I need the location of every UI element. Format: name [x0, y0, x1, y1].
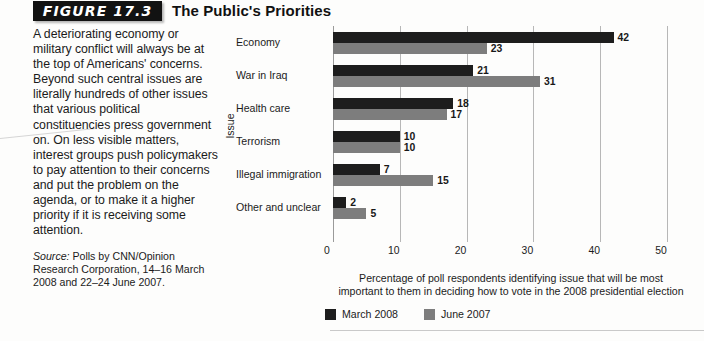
legend-entry[interactable]: March 2008: [325, 308, 398, 320]
source-note: Source: Polls by CNN/Opinion Research Co…: [33, 250, 219, 288]
gridline-30: [533, 26, 534, 242]
chart-area: Issue EconomyWar in IraqHealth careTerro…: [216, 24, 704, 341]
x-axis-caption-line-1: Percentage of poll respondents identifyi…: [318, 272, 704, 285]
figure-header: FIGURE 17.3 The Public's Priorities: [0, 0, 704, 24]
bar: [333, 208, 366, 219]
bar-value-label: 7: [384, 164, 390, 175]
plot-area: 01020304050422321311817101071525: [333, 26, 667, 242]
gridline-10: [400, 26, 401, 242]
figure-title: The Public's Priorities: [172, 2, 331, 19]
bar: [333, 32, 614, 43]
bar: [333, 43, 487, 54]
bar-value-label: 5: [370, 208, 376, 219]
category-label: Illegal immigration: [236, 168, 336, 180]
x-tick-label-40: 40: [582, 245, 606, 256]
x-tick-label-50: 50: [649, 245, 673, 256]
category-label: War in Iraq: [236, 69, 336, 81]
bar-value-label: 21: [477, 65, 489, 76]
figure-container: FIGURE 17.3 The Public's Priorities A de…: [0, 0, 704, 341]
category-axis-labels: EconomyWar in IraqHealth careTerrorismIl…: [236, 24, 336, 242]
bar: [333, 98, 453, 109]
gridline-50: [667, 26, 668, 242]
bar: [333, 131, 400, 142]
bar-value-label: 2: [350, 197, 356, 208]
figure-number-label: FIGURE 17.3: [33, 1, 162, 22]
x-tick-label-0: 0: [315, 245, 339, 256]
legend-swatch-icon: [424, 309, 435, 320]
bar-value-label: 31: [544, 76, 556, 87]
bar: [333, 175, 433, 186]
bar-value-label: 10: [404, 142, 416, 153]
gridline-20: [467, 26, 468, 242]
bar: [333, 109, 447, 120]
category-label: Health care: [236, 102, 336, 114]
bar-value-label: 23: [491, 43, 503, 54]
x-axis-caption: Percentage of poll respondents identifyi…: [318, 272, 704, 299]
bar-value-label: 18: [457, 98, 469, 109]
bar: [333, 164, 380, 175]
figure-caption-text: A deteriorating economy or military conf…: [33, 27, 219, 238]
legend-entry[interactable]: June 2007: [424, 308, 490, 320]
legend-swatch-icon: [325, 309, 336, 320]
x-tick-label-10: 10: [382, 245, 406, 256]
x-tick-label-20: 20: [449, 245, 473, 256]
category-label: Other and unclear: [236, 201, 336, 213]
bar: [333, 76, 540, 87]
x-tick-label-30: 30: [515, 245, 539, 256]
bar-value-label: 17: [451, 109, 463, 120]
bar-value-label: 42: [618, 32, 630, 43]
chart-legend: March 2008June 2007: [325, 308, 516, 320]
x-axis-caption-line-2: important to them in deciding how to vot…: [318, 285, 704, 298]
legend-label: March 2008: [342, 308, 398, 320]
source-label: Source:: [33, 250, 70, 262]
gridline-40: [600, 26, 601, 242]
category-label: Economy: [236, 36, 336, 48]
category-label: Terrorism: [236, 135, 336, 147]
bar: [333, 197, 346, 208]
bar-value-label: 10: [404, 131, 416, 142]
caption-column: A deteriorating economy or military conf…: [33, 27, 219, 288]
legend-label: June 2007: [441, 308, 490, 320]
bar: [333, 65, 473, 76]
y-axis-title: Issue: [224, 96, 236, 156]
bar: [333, 142, 400, 153]
figure-number-banner: FIGURE 17.3: [33, 1, 162, 21]
bottom-rule: [330, 330, 704, 331]
bar-value-label: 15: [437, 175, 449, 186]
